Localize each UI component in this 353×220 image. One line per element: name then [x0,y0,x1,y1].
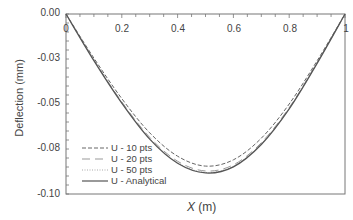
x-tick-label: 0.8 [275,23,305,34]
x-tick-label: 0 [51,23,81,34]
legend-label: U - 20 pts [111,153,152,164]
legend-label: U - Analytical [111,175,166,186]
x-tick-label: 0.6 [219,23,249,34]
legend-item: U - 10 pts [82,142,166,153]
x-axis-variable: X [187,200,195,214]
y-tick-label: 0.00 [24,7,60,18]
legend: U - 10 pts U - 20 pts U - 50 pts U - Ana… [82,142,166,186]
legend-item: U - Analytical [82,175,166,186]
legend-label: U - 10 pts [111,142,152,153]
y-tick-label: -0.10 [24,188,60,199]
long-dash-line-icon [82,156,108,162]
dotted-line-icon [82,167,108,173]
legend-label: U - 50 pts [111,164,152,175]
y-tick-label: -0.08 [24,142,60,153]
x-tick-label: 0.2 [107,23,137,34]
solid-line-icon [82,178,108,184]
x-tick-label: 1 [331,23,353,34]
x-axis-label: X (m) [187,200,216,214]
legend-item: U - 50 pts [82,164,166,175]
short-dash-line-icon [82,145,108,151]
legend-item: U - 20 pts [82,153,166,164]
y-tick-label: -0.03 [24,52,60,63]
x-axis-unit: (m) [198,200,216,214]
x-tick-label: 0.4 [163,23,193,34]
y-tick-label: -0.05 [24,97,60,108]
